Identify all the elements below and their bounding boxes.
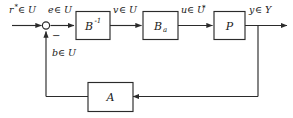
signal-reference-set: ∈ U xyxy=(18,4,37,15)
signal-u-set-superscript: * xyxy=(202,4,206,12)
signal-feedback-set: ∈ U xyxy=(58,47,77,58)
signal-output-label: y xyxy=(248,4,255,15)
summing-junction-minus-sign: − xyxy=(52,30,60,41)
block-b-a-subscript: a xyxy=(163,26,167,34)
block-b-a-label: B xyxy=(153,20,162,33)
block-plant-label: P xyxy=(225,20,234,33)
signal-v-set: ∈ U xyxy=(119,4,138,15)
signal-error-set: ∈ U xyxy=(54,4,73,15)
signal-output-set: ∈ Y xyxy=(255,4,273,15)
block-diagram-canvas: B -1 B a P A − r * ∈ U e ∈ U v ∈ U u ∈ U… xyxy=(0,0,293,118)
summing-junction xyxy=(42,22,49,29)
block-diagram-figure: B -1 B a P A − r * ∈ U e ∈ U v ∈ U u ∈ U… xyxy=(0,0,293,118)
block-b-inverse-label: B xyxy=(84,20,93,33)
block-b-inverse-superscript: -1 xyxy=(95,17,102,25)
block-a-label: A xyxy=(106,91,115,104)
